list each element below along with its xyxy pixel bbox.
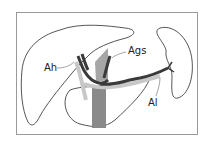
leader-ah — [57, 62, 74, 68]
label-al: Al — [148, 98, 158, 108]
leader-ags — [112, 52, 126, 58]
leader-al — [156, 78, 160, 96]
aorta — [92, 86, 106, 128]
label-ah: Ah — [44, 63, 57, 73]
portal-vessels — [76, 62, 160, 100]
label-ags: Ags — [128, 46, 146, 56]
spleen-outline — [157, 27, 193, 98]
liver-outline — [21, 25, 134, 125]
liver-diagram — [0, 0, 210, 142]
